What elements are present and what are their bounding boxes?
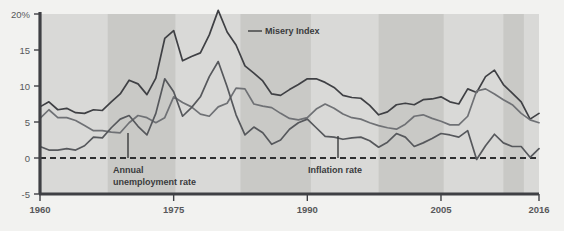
y-tick-label-4: 0 [25, 153, 30, 164]
y-tick-label-1: 15 [19, 45, 30, 56]
unemployment-annotation-text-line1: Annual [113, 165, 144, 175]
x-tick-label-1: 1975 [163, 204, 185, 215]
x-tick-label-0: 1960 [29, 204, 50, 215]
chart-canvas: 20%151050-5 19601975199020052016 Misery … [0, 0, 564, 231]
recession-band-1 [240, 14, 310, 194]
x-tick-label-4: 2016 [528, 204, 549, 215]
x-tick-label-3: 2005 [430, 204, 452, 215]
y-tick-label-2: 10 [19, 81, 30, 92]
y-tick-label-5: -5 [22, 189, 30, 200]
misery-index-chart: 20%151050-5 19601975199020052016 Misery … [0, 0, 564, 231]
y-tick-label-0: 20% [11, 9, 31, 20]
x-tick-label-2: 1990 [297, 204, 318, 215]
misery-index-annotation-text: Misery Index [265, 26, 320, 36]
recession-band-3 [503, 14, 523, 194]
y-tick-label-3: 5 [25, 117, 30, 128]
unemployment-annotation-text-line2: unemployment rate [113, 177, 196, 187]
inflation-annotation-text: Inflation rate [308, 165, 362, 175]
